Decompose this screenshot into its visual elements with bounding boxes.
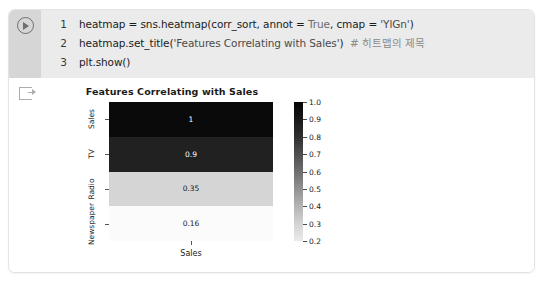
cell-output-area: Features Correlating with Sales 1Sales0.…	[9, 78, 535, 273]
heatmap-plot-area: 1Sales0.9TV0.35Radio0.16NewspaperSales	[109, 102, 273, 241]
colorbar-gradient	[294, 102, 303, 241]
code-lines[interactable]: 1 heatmap = sns.heatmap(corr_sort, annot…	[41, 10, 535, 78]
heatmap-cell: 0.35Radio	[109, 172, 273, 207]
code-token: plt.show()	[79, 56, 130, 68]
colorbar-tick-mark	[303, 154, 307, 155]
code-text: heatmap = sns.heatmap(corr_sort, annot =…	[79, 15, 414, 34]
heatmap-cell: 1Sales	[109, 102, 273, 137]
play-icon	[23, 22, 29, 30]
y-tick-mark	[105, 189, 109, 190]
line-number: 1	[41, 15, 79, 34]
x-tick-label: Sales	[109, 249, 273, 258]
colorbar-tick-label: 1.0	[309, 98, 321, 107]
colorbar-tick-mark	[303, 172, 307, 173]
matplotlib-figure: Features Correlating with Sales 1Sales0.…	[47, 81, 357, 271]
colorbar-tick-mark	[303, 102, 307, 103]
run-cell-button[interactable]	[17, 17, 34, 34]
colorbar: 1.00.90.80.70.60.50.40.30.2	[294, 102, 303, 241]
colorbar-tick-mark	[303, 224, 307, 225]
heatmap-cell-value: 0.35	[183, 184, 200, 193]
code-token: )	[410, 18, 414, 30]
code-token: heatmap = sns.heatmap(corr_sort, annot =	[79, 18, 308, 30]
output-arrow-icon	[19, 87, 32, 100]
colorbar-tick-label: 0.8	[309, 132, 321, 141]
code-token: , cmap =	[330, 18, 380, 30]
code-line: 2 heatmap.set_title('Features Correlatin…	[41, 34, 535, 53]
colorbar-tick-label: 0.5	[309, 184, 321, 193]
colorbar-tick-label: 0.4	[309, 202, 321, 211]
colorbar-tick-mark	[303, 206, 307, 207]
code-comment: # 히트맵의 제목	[350, 37, 425, 49]
heatmap-cell-value: 0.16	[183, 219, 200, 228]
code-input-area[interactable]: 1 heatmap = sns.heatmap(corr_sort, annot…	[9, 10, 535, 78]
code-token: 'Features Correlating with Sales'	[173, 37, 339, 49]
y-tick-label: Sales	[87, 109, 96, 129]
y-tick-mark	[105, 154, 109, 155]
colorbar-tick-label: 0.7	[309, 150, 321, 159]
line-number: 3	[41, 53, 79, 72]
code-text: plt.show()	[79, 53, 130, 72]
code-line: 1 heatmap = sns.heatmap(corr_sort, annot…	[41, 15, 535, 34]
colorbar-tick-label: 0.6	[309, 167, 321, 176]
colorbar-tick-mark	[303, 137, 307, 138]
colorbar-tick-label: 0.2	[309, 237, 321, 246]
heatmap-cell-value: 1	[189, 115, 194, 124]
colorbar-tick-mark	[303, 241, 307, 242]
y-tick-label: TV	[87, 149, 96, 159]
code-token: )	[339, 37, 349, 49]
y-tick-mark	[105, 224, 109, 225]
chart-title: Features Correlating with Sales	[47, 86, 297, 97]
heatmap-cell: 0.16Newspaper	[109, 206, 273, 241]
colorbar-tick-mark	[303, 189, 307, 190]
code-token: heatmap.set_title(	[79, 37, 173, 49]
colorbar-tick-label: 0.9	[309, 115, 321, 124]
heatmap-cell: 0.9TV	[109, 137, 273, 172]
y-tick-label: Radio	[87, 178, 96, 199]
notebook-cell: 1 heatmap = sns.heatmap(corr_sort, annot…	[8, 9, 535, 273]
code-token: True	[308, 18, 330, 30]
y-tick-mark	[105, 119, 109, 120]
code-token: 'YlGn'	[380, 18, 409, 30]
run-gutter	[9, 10, 41, 78]
colorbar-tick-label: 0.3	[309, 219, 321, 228]
line-number: 2	[41, 34, 79, 53]
output-gutter	[19, 87, 39, 105]
heatmap-cell-value: 0.9	[185, 150, 197, 159]
y-tick-label: Newspaper	[87, 203, 96, 245]
code-line: 3 plt.show()	[41, 53, 535, 72]
x-tick-mark	[191, 241, 192, 245]
code-text: heatmap.set_title('Features Correlating …	[79, 34, 425, 53]
colorbar-tick-mark	[303, 119, 307, 120]
